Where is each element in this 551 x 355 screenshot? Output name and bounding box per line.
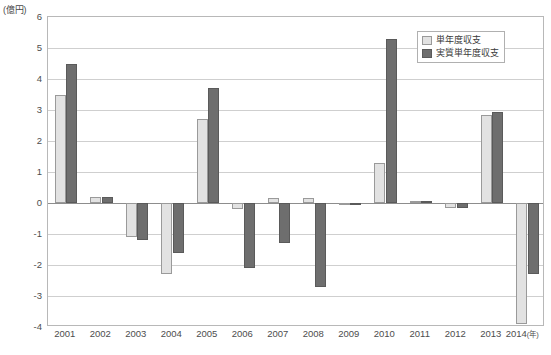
x-tick-label-2006: 2006 xyxy=(232,328,253,339)
bar-2014-series0 xyxy=(516,203,527,324)
bar-2007-series1 xyxy=(279,203,290,243)
x-tick-label-2012: 2012 xyxy=(445,328,466,339)
chart-legend: 単年度収支 実質単年度収支 xyxy=(417,31,505,63)
bar-2001-series1 xyxy=(66,64,77,204)
y-tick-label: -2 xyxy=(2,259,42,270)
bar-2006-series0 xyxy=(232,203,243,209)
legend-swatch-icon-series1 xyxy=(422,49,432,58)
bar-2006-series1 xyxy=(244,203,255,268)
x-tick-label-2005: 2005 xyxy=(196,328,217,339)
x-tick-label-2002: 2002 xyxy=(90,328,111,339)
y-tick-label: 0 xyxy=(2,197,42,208)
x-tick-label-2010: 2010 xyxy=(374,328,395,339)
x-tick-label-2008: 2008 xyxy=(303,328,324,339)
x-tick-label-2014: 2014(年) xyxy=(506,328,539,339)
y-tick-label: 4 xyxy=(2,73,42,84)
bar-2014-series1 xyxy=(528,203,539,274)
bar-2010-series0 xyxy=(374,163,385,203)
bar-2004-series1 xyxy=(173,203,184,253)
x-axis-ticks: 2001200220032004200520062007200820092010… xyxy=(47,328,544,344)
y-tick-label: -4 xyxy=(2,321,42,332)
bar-2010-series1 xyxy=(386,39,397,203)
bar-2004-series0 xyxy=(161,203,172,274)
y-axis-unit-label: (億円) xyxy=(3,3,26,16)
x-tick-label-2003: 2003 xyxy=(125,328,146,339)
x-tick-label-2004: 2004 xyxy=(161,328,182,339)
x-tick-label-2011: 2011 xyxy=(410,328,430,339)
bars-layer xyxy=(48,17,543,325)
bar-2003-series0 xyxy=(126,203,137,237)
bar-2009-series0 xyxy=(339,203,350,205)
bar-2011-series1 xyxy=(421,201,432,203)
y-tick-label: 2 xyxy=(2,135,42,146)
bar-2002-series1 xyxy=(102,197,113,203)
legend-label-series1: 実質単年度収支 xyxy=(436,48,499,59)
legend-swatch-icon-series0 xyxy=(422,36,432,45)
legend-item-jisshitsu-tannendo: 実質単年度収支 xyxy=(422,48,499,59)
x-tick-label-2013: 2013 xyxy=(480,328,501,339)
legend-label-series0: 単年度収支 xyxy=(436,35,481,46)
y-tick-label: -1 xyxy=(2,228,42,239)
y-tick-label: 1 xyxy=(2,166,42,177)
x-tick-label-2007: 2007 xyxy=(267,328,288,339)
legend-item-tannendo: 単年度収支 xyxy=(422,35,499,46)
bar-2008-series0 xyxy=(303,198,314,203)
bar-2012-series1 xyxy=(457,203,468,208)
y-tick-label: -3 xyxy=(2,290,42,301)
bar-2007-series0 xyxy=(268,198,279,203)
bar-2003-series1 xyxy=(137,203,148,240)
bar-2009-series1 xyxy=(350,203,361,205)
bar-2013-series0 xyxy=(481,115,492,203)
bar-2013-series1 xyxy=(492,112,503,203)
bar-2002-series0 xyxy=(90,197,101,203)
y-tick-label: 3 xyxy=(2,104,42,115)
bar-2011-series0 xyxy=(410,201,421,203)
bar-2008-series1 xyxy=(315,203,326,287)
bar-2005-series0 xyxy=(197,119,208,203)
bar-2001-series0 xyxy=(55,95,66,204)
x-tick-label-2009: 2009 xyxy=(338,328,359,339)
y-tick-label: 5 xyxy=(2,42,42,53)
bar-2012-series0 xyxy=(445,203,456,208)
bar-2005-series1 xyxy=(208,88,219,203)
x-tick-label-2001: 2001 xyxy=(54,328,75,339)
bar-chart: (億円) 6543210-1-2-3-4 2001200220032004200… xyxy=(0,0,551,355)
